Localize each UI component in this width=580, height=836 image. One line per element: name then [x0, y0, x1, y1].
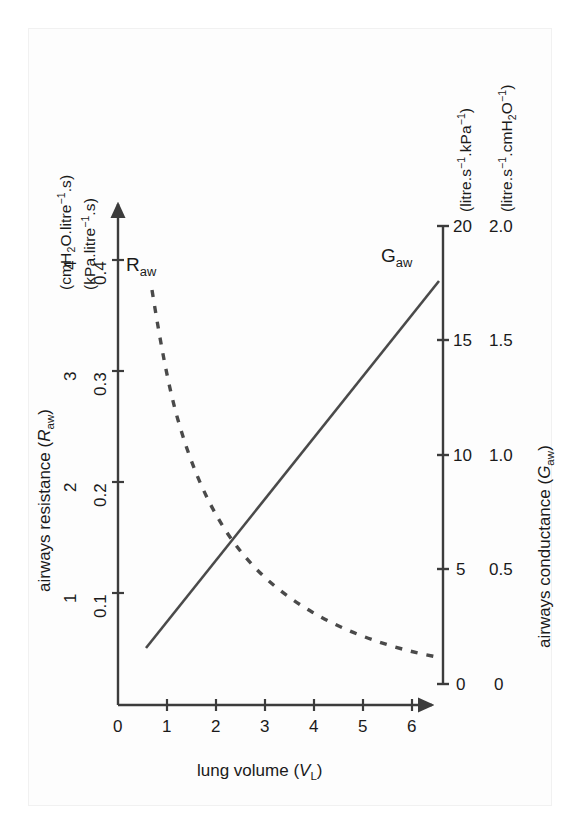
right-axis-title-var: G [535, 466, 554, 479]
origin-label: 0 [113, 718, 122, 735]
right-axis-title-sub: aw [544, 451, 556, 466]
figure-root: (cmH2O.litre−1.s) (kPa.litre−1.s) 4 3 2 … [0, 0, 580, 836]
series-line-raw [152, 290, 437, 657]
x-axis-title-prefix: lung volume ( [197, 761, 299, 780]
right-tick-outer-1-0: 1.0 [489, 447, 513, 464]
right-tick-outer-0-5: 0.5 [489, 561, 513, 578]
x-tick-1: 1 [162, 718, 171, 735]
series-line-gaw [146, 281, 439, 648]
left-axis-title-suffix: ) [35, 409, 54, 415]
series-label-gaw-sub: aw [396, 255, 413, 270]
series-label-raw: Raw [126, 255, 156, 274]
left-tick-inner-0-4: 0.4 [92, 261, 109, 285]
left-tick-outer-4: 4 [62, 261, 79, 270]
right-axis-units-inner: (litre.s−1.kPa−1) [458, 108, 474, 212]
left-tick-inner-0-3: 0.3 [92, 372, 109, 396]
right-tick-inner-10: 10 [453, 447, 472, 464]
right-tick-outer-2-0: 2.0 [489, 218, 513, 235]
right-tick-outer-1-5: 1.5 [489, 332, 513, 349]
right-tick-inner-0: 0 [456, 676, 465, 693]
right-tick-outer-0: 0 [494, 676, 503, 693]
series-label-gaw: Gaw [381, 246, 412, 265]
left-axis-title-sub: aw [44, 415, 56, 430]
left-axis-title: airways resistance (Raw) [36, 409, 53, 592]
series-label-raw-sub: aw [140, 264, 157, 279]
left-tick-inner-0-2: 0.2 [92, 483, 109, 507]
series-label-gaw-prefix: G [381, 245, 396, 266]
left-tick-outer-2: 2 [62, 483, 79, 492]
left-axis-title-prefix: airways resistance ( [35, 442, 54, 592]
right-tick-inner-20: 20 [453, 218, 472, 235]
x-tick-2: 2 [211, 718, 220, 735]
right-axis-units-outer: (litre.s−1.cmH2O−1) [499, 85, 515, 212]
x-tick-3: 3 [260, 718, 269, 735]
right-axis-title: airways conductance (Gaw) [536, 445, 553, 648]
x-tick-5: 5 [358, 718, 367, 735]
x-tick-6: 6 [407, 718, 416, 735]
plot-canvas [0, 0, 580, 836]
right-tick-inner-15: 15 [453, 332, 472, 349]
left-tick-outer-1: 1 [62, 594, 79, 603]
x-axis-title-var: V [299, 761, 310, 780]
left-tick-outer-3: 3 [62, 372, 79, 381]
right-axis-title-prefix: airways conductance ( [535, 479, 554, 648]
x-axis-title: lung volume (VL) [197, 762, 323, 779]
right-axis-title-suffix: ) [535, 445, 554, 451]
left-tick-inner-0-1: 0.1 [92, 594, 109, 618]
left-axis-units-outer: (cmH2O.litre−1.s) [58, 175, 74, 290]
series-label-raw-prefix: R [126, 254, 140, 275]
x-tick-4: 4 [309, 718, 318, 735]
right-tick-inner-5: 5 [456, 561, 465, 578]
x-axis-title-suffix: ) [317, 761, 323, 780]
left-axis-title-var: R [35, 430, 54, 442]
